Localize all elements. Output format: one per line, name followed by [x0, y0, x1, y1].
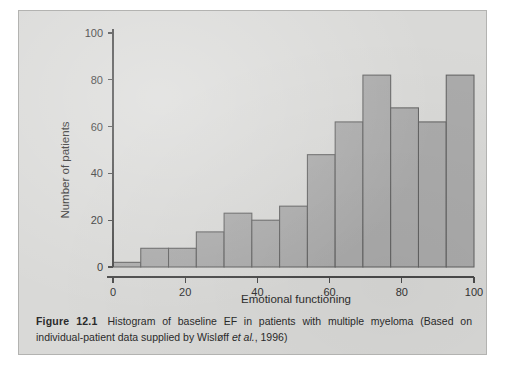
- histogram-bar: [335, 122, 363, 267]
- x-tick-label: 100: [465, 286, 483, 298]
- histogram-bar: [280, 206, 308, 267]
- y-tick-label: 60: [91, 121, 103, 133]
- histogram-bar: [307, 155, 335, 267]
- figure-number: Figure 12.1: [36, 315, 98, 327]
- y-tick-label: 80: [91, 74, 103, 86]
- histogram-bar: [141, 248, 169, 267]
- histogram-bar: [391, 108, 419, 267]
- histogram-bar: [418, 122, 446, 267]
- figure-panel: Number of patients Emotional functioning…: [18, 10, 487, 355]
- histogram-bar: [113, 262, 141, 267]
- x-tick-label: 60: [323, 286, 335, 298]
- y-axis-ticks: 020406080100: [85, 27, 113, 273]
- y-tick-label: 20: [91, 214, 103, 226]
- histogram-bar: [446, 75, 474, 267]
- x-tick-label: 80: [396, 286, 408, 298]
- histogram-bar: [169, 248, 197, 267]
- y-axis-title: Number of patients: [59, 121, 71, 218]
- caption-text-after: , 1996): [255, 331, 288, 343]
- histogram-plot: Number of patients Emotional functioning…: [19, 15, 488, 310]
- caption-et-al: et al.: [232, 331, 255, 343]
- histogram-bar: [196, 232, 224, 267]
- histogram-bar: [252, 220, 280, 267]
- figure-caption: Figure 12.1Histogram of baseline EF in p…: [36, 314, 472, 345]
- y-tick-label: 0: [97, 261, 103, 273]
- histogram-svg: Number of patients Emotional functioning…: [19, 15, 488, 310]
- y-tick-label: 40: [91, 167, 103, 179]
- x-tick-label: 40: [251, 286, 263, 298]
- histogram-bar: [363, 75, 391, 267]
- x-tick-label: 0: [110, 286, 116, 298]
- y-tick-label: 100: [85, 27, 103, 39]
- histogram-bar: [224, 213, 252, 267]
- bars-group: [113, 75, 474, 267]
- x-tick-label: 20: [179, 286, 191, 298]
